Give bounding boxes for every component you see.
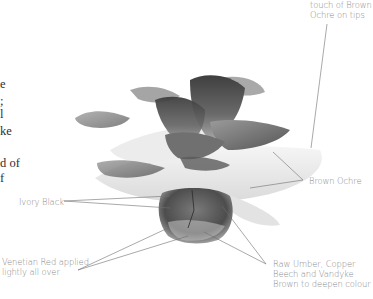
annotation-brown-ochre: Brown Ochre [309,176,362,186]
annotation-line: Beech and Vandyke [273,269,371,279]
leaf-pale-right [230,195,280,226]
annotation-line: Brown to deepen colour [273,279,371,289]
annotation-brown-ochre-tips: touch of Brown Ochre on tips [310,0,372,20]
leader-raw-umber-2 [204,232,266,264]
root-base [159,188,233,243]
annotation-line: touch of Brown [310,0,372,10]
annotation-line: lightly all over [2,267,89,277]
leader-ivory-black-2 [64,201,170,208]
leaf-left-upper [75,111,130,128]
book-page: e ; l ke d of f [0,0,373,299]
annotation-raw-umber: Raw Umber, Copper Beech and Vandyke Brow… [273,259,371,289]
annotation-line: Raw Umber, Copper [273,259,371,269]
annotation-line: Ochre on tips [310,10,372,20]
leader-venetian-red-2 [78,236,188,270]
annotation-venetian-red: Venetian Red applied lightly all over [2,257,89,277]
leader-top-right [311,24,327,148]
leader-venetian-red-1 [78,228,168,270]
annotation-line: Venetian Red applied [2,257,89,267]
plant-illustration [0,0,373,299]
annotation-ivory-black: Ivory Black [19,197,64,207]
